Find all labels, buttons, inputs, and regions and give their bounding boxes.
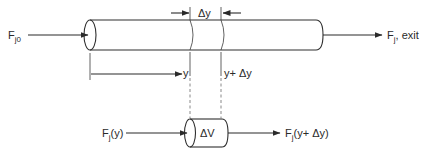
delta-y-label: Δy (198, 7, 211, 19)
position-y-plus-label: y+ Δy (224, 67, 252, 79)
element-volume-label: ΔV (200, 127, 215, 139)
position-y-label: y (183, 67, 189, 79)
section-arc-y-plus (221, 20, 224, 50)
inlet-flow-label: Fj0 (8, 29, 22, 44)
pfr-diagram: Fj0 Fj, exit Δy y y+ Δy ΔV Fj(y) Fj(y+ Δ… (0, 0, 428, 158)
delta-y-dimension: Δy (171, 7, 241, 20)
element-outflow-label: Fj(y+ Δy) (285, 127, 329, 142)
exit-flow-label: Fj, exit (387, 29, 419, 44)
tube-outlet-end (316, 20, 323, 50)
element-inflow-label: Fj(y) (102, 127, 123, 142)
differential-volume-element: ΔV (185, 119, 229, 147)
main-reactor-tube (84, 20, 323, 50)
section-arc-y (190, 20, 193, 50)
element-outlet-end (222, 119, 228, 147)
